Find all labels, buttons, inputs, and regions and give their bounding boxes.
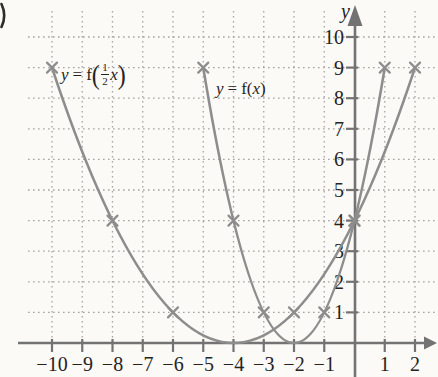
y-tick-label: 4 xyxy=(334,210,344,232)
cropped-corner-mark xyxy=(2,4,4,27)
fraction-denominator: 2 xyxy=(102,75,108,87)
x-tick-label: −7 xyxy=(132,353,153,375)
x-tick-label: −4 xyxy=(223,353,244,375)
y-tick-label: 6 xyxy=(334,148,344,170)
x-tick-label: −5 xyxy=(193,353,214,375)
x-tick-label: −2 xyxy=(283,353,304,375)
x-tick-label: −1 xyxy=(314,353,335,375)
x-tick-label: −3 xyxy=(253,353,274,375)
fraction-one-half: 1 2 xyxy=(101,62,110,87)
close-paren: ) xyxy=(260,80,266,97)
fraction-numerator: 1 xyxy=(101,62,110,75)
curve-label-y-equals-f-half-x: y = f ( 1 2 x ) xyxy=(61,62,126,87)
x-tick-label: −8 xyxy=(102,353,123,375)
equals-sign: = xyxy=(228,80,238,97)
y-tick-label: 8 xyxy=(334,87,344,109)
data-point-marker xyxy=(259,307,269,317)
label-var-x: x xyxy=(252,80,260,97)
y-tick-label: 1 xyxy=(334,301,344,323)
x-axis-arrow-icon xyxy=(424,337,437,350)
label-var-y: y xyxy=(61,66,69,83)
equals-sign: = xyxy=(73,66,83,83)
label-var-x: x xyxy=(110,66,118,83)
y-axis-title: y xyxy=(339,0,350,23)
x-tick-label: −6 xyxy=(162,353,183,375)
x-tick-label: 1 xyxy=(380,353,390,375)
label-f-open: f( xyxy=(241,80,252,97)
y-tick-label: 10 xyxy=(324,26,344,48)
open-paren: ( xyxy=(92,61,100,89)
y-tick-label: 9 xyxy=(334,57,344,79)
data-point-marker xyxy=(289,307,299,317)
data-point-marker xyxy=(319,307,329,317)
graph-canvas: −10−9−8−7−6−5−4−3−2−11212345678910y xyxy=(0,0,438,377)
x-tick-label: −9 xyxy=(72,353,93,375)
y-tick-label: 7 xyxy=(334,118,344,140)
label-var-y: y xyxy=(216,80,224,97)
x-tick-label: 2 xyxy=(410,353,420,375)
close-paren: ) xyxy=(118,61,126,89)
x-tick-label: −10 xyxy=(36,353,67,375)
y-tick-label: 5 xyxy=(334,179,344,201)
function-transformation-graph: −10−9−8−7−6−5−4−3−2−11212345678910y y = … xyxy=(0,0,438,377)
curve-label-y-equals-f-x: y = f( x ) xyxy=(216,80,266,97)
